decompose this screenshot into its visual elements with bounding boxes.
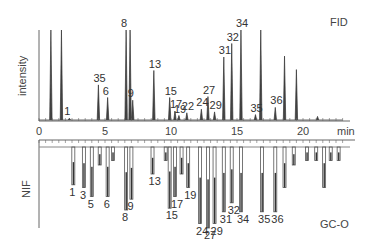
gco-bar-label: 35 <box>258 213 270 225</box>
fid-peak <box>283 56 285 120</box>
gco-bar-label: 15 <box>166 209 178 221</box>
fid-peak-label: 29 <box>210 99 222 111</box>
y-label-nif: NIF <box>20 180 32 198</box>
y-label-intensity: intensity <box>16 55 28 96</box>
chromatogram-chart: 13568913151719222427293132343536 1356891… <box>0 0 384 250</box>
fid-peak-label: 24 <box>196 96 208 108</box>
fid-peak <box>125 30 127 120</box>
x-tick-label: 10 <box>165 125 177 137</box>
fid-peak <box>213 112 215 120</box>
gco-bar-label: 3 <box>80 189 86 201</box>
fid-peak-label: 9 <box>128 87 134 99</box>
x-tick-label: 15 <box>231 125 243 137</box>
fid-peak <box>295 70 297 120</box>
fid-peak-label: 35 <box>250 102 262 114</box>
fid-peak-label: 31 <box>219 44 231 56</box>
gco-bar-label: 6 <box>104 198 110 210</box>
fid-peak <box>106 98 108 121</box>
gco-bar-label: 34 <box>237 213 249 225</box>
fid-peak-labels: 13568913151719222427293132343536 <box>64 17 282 117</box>
fid-peak <box>97 85 99 120</box>
gco-label: GC-O <box>320 218 349 230</box>
fid-peak <box>254 115 256 120</box>
x-tick-label: 20 <box>297 125 309 137</box>
fid-peak-label: 13 <box>149 58 161 70</box>
fid-peak <box>200 109 202 120</box>
gco-bar-label: 29 <box>211 225 223 237</box>
fid-peak <box>153 71 155 121</box>
fid-peak <box>178 116 180 121</box>
fid-peak <box>132 100 134 120</box>
fid-peak <box>240 30 242 120</box>
fid-peak-label: 27 <box>203 84 215 96</box>
gco-bar-label: 1 <box>69 186 75 198</box>
gco-bars <box>72 147 340 228</box>
fid-peak-label: 8 <box>121 17 127 29</box>
fid-peak <box>60 30 62 120</box>
gco-bar-label: 36 <box>271 213 283 225</box>
x-tick-label: 5 <box>102 125 108 137</box>
x-tick-label: 0 <box>36 125 42 137</box>
x-unit-label: min <box>337 125 355 137</box>
fid-label: FID <box>330 16 348 28</box>
fid-axes <box>39 30 350 121</box>
gco-bar-label: 13 <box>149 175 161 187</box>
x-axis-ticks: 05101520 <box>36 118 343 143</box>
fid-peak-label: 32 <box>227 31 239 43</box>
fid-peak <box>223 57 225 120</box>
fid-peak-label: 6 <box>103 85 109 97</box>
gco-bar-label: 5 <box>88 198 94 210</box>
fid-peak-label: 22 <box>182 100 194 112</box>
fid-peak <box>316 116 318 120</box>
fid-peak-label: 1 <box>64 105 70 117</box>
fid-peak <box>274 107 276 120</box>
gco-bar-label: 9 <box>127 200 133 212</box>
fid-peak <box>129 30 131 120</box>
fid-peak <box>50 30 52 120</box>
gco-bar-label: 19 <box>184 189 196 201</box>
gco-bar-label: 8 <box>122 211 128 223</box>
fid-peak-label: 15 <box>165 85 177 97</box>
fid-peak-label: 34 <box>236 17 248 29</box>
gco-bar-label: 17 <box>171 198 183 210</box>
fid-peak-label: 35 <box>93 72 105 84</box>
fid-peak-label: 36 <box>270 94 282 106</box>
